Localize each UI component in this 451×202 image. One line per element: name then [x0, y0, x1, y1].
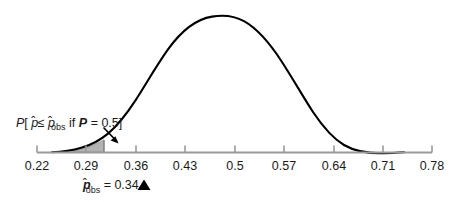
- observed-value-label: p̂obs = 0.34: [82, 178, 139, 195]
- observed-obs-subscript: obs: [86, 185, 101, 195]
- observed-equals-value: = 0.34: [104, 178, 139, 192]
- x-tick-label-6: 0.64: [322, 159, 346, 173]
- x-tick-label-1: 0.29: [74, 159, 98, 173]
- sampling-distribution-figure: 0.22 0.29 0.36 0.43 0.5 0.57 0.64 0.71 0…: [0, 0, 451, 202]
- x-tick-label-5: 0.57: [272, 159, 296, 173]
- observed-triangle-marker: [138, 180, 151, 191]
- x-tick-label-4: 0.5: [226, 159, 243, 173]
- normal-density-curve: [52, 16, 404, 154]
- obs-subscript: obs: [51, 122, 66, 132]
- x-tick-label-2: 0.36: [124, 159, 148, 173]
- x-tick-label-3: 0.43: [173, 159, 197, 173]
- equals-half-text: = 0.5]: [91, 116, 123, 130]
- chart-canvas: 0.22 0.29 0.36 0.43 0.5 0.57 0.64 0.71 0…: [0, 0, 451, 202]
- x-tick-label-0: 0.22: [25, 159, 49, 173]
- x-tick-label-8: 0.78: [420, 159, 444, 173]
- x-tick-label-7: 0.71: [371, 159, 395, 173]
